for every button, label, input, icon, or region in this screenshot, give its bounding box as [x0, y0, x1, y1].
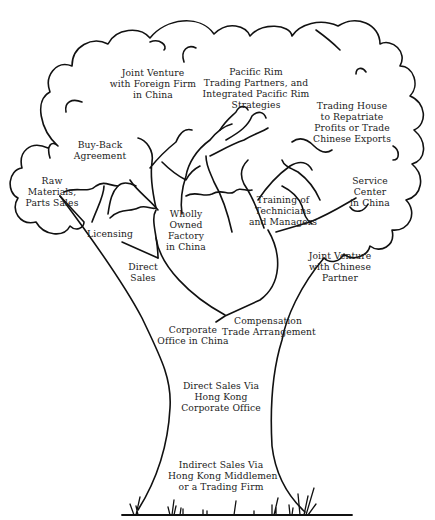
canopy-curl	[66, 100, 82, 112]
trunk-right	[271, 258, 324, 512]
label-line: Wholly	[158, 208, 214, 219]
label-line: with Chinese	[302, 261, 378, 272]
label-line: Technicians	[246, 205, 320, 216]
label-line: Compensation	[222, 315, 314, 326]
label-line: Direct	[121, 261, 165, 272]
label-training: Training of Technicians and Managers	[246, 194, 320, 227]
canopy-curl	[316, 30, 340, 50]
canopy-curl	[393, 146, 398, 160]
label-line: Corporate Office	[178, 402, 264, 413]
label-direct-sales-hk: Direct Sales Via Hong Kong Corporate Off…	[178, 380, 264, 413]
label-line: in China	[158, 241, 214, 252]
label-line: Agreement	[65, 150, 135, 161]
label-line: Buy-Back	[65, 139, 135, 150]
label-licensing: Licensing	[80, 228, 140, 239]
label-line: Trading House	[297, 100, 407, 111]
label-line: Corporate	[155, 324, 231, 335]
label-line: Center	[340, 186, 400, 197]
label-line: Raw	[20, 175, 84, 186]
label-service-center: Service Center in China	[340, 175, 400, 208]
label-trading-house: Trading House to Repatriate Profits or T…	[297, 100, 407, 144]
branch-right-inner	[216, 230, 278, 322]
label-jv-chinese-partner: Joint Venture with Chinese Partner	[302, 250, 378, 283]
canopy-curl	[150, 41, 165, 50]
label-line: Hong Kong Middlemen	[168, 470, 274, 481]
label-line: Office in China	[155, 335, 231, 346]
label-line: Partner	[302, 272, 378, 283]
label-line: Strategies	[201, 99, 311, 110]
label-line: or a Trading Firm	[168, 481, 274, 492]
canopy-curl	[183, 47, 196, 62]
label-line: Trade Arrangement	[222, 326, 314, 337]
label-line: Owned	[158, 219, 214, 230]
label-line: Direct Sales Via	[178, 380, 264, 391]
label-line: Licensing	[80, 228, 140, 239]
label-line: Joint Venture	[302, 250, 378, 261]
branch-licensing	[92, 186, 118, 222]
label-line: Factory	[158, 230, 214, 241]
branch-direct-sales	[122, 242, 158, 258]
label-line: with Foreign Firm	[98, 78, 208, 89]
branch-center-left	[181, 124, 232, 214]
tree-diagram: Joint Venture with Foreign Firm in China…	[0, 0, 435, 520]
label-line: to Repatriate	[297, 111, 407, 122]
label-line: Pacific Rim	[201, 66, 311, 77]
label-buy-back: Buy-Back Agreement	[65, 139, 135, 161]
label-line: Integrated Pacific Rim	[201, 88, 311, 99]
label-line: in China	[98, 89, 208, 100]
branch-upper-left-2	[162, 162, 200, 180]
label-compensation: Compensation Trade Arrangement	[222, 315, 314, 337]
leaf-cluster-mid-left	[110, 207, 156, 218]
label-line: Sales	[121, 272, 165, 283]
label-line: Joint Venture	[98, 67, 208, 78]
label-line: Chinese Exports	[297, 133, 407, 144]
label-line: Hong Kong	[178, 391, 264, 402]
label-line: Parts Sales	[20, 197, 84, 208]
branch-upper-left	[138, 130, 192, 209]
label-pacific-rim: Pacific Rim Trading Partners, and Integr…	[201, 66, 311, 110]
label-line: Trading Partners, and	[201, 77, 311, 88]
label-wholly-owned: Wholly Owned Factory in China	[158, 208, 214, 252]
label-line: Training of	[246, 194, 320, 205]
trunk-left	[60, 196, 170, 510]
label-corporate-office: Corporate Office in China	[155, 324, 231, 346]
label-line: in China	[340, 197, 400, 208]
label-line: Indirect Sales Via	[168, 459, 274, 470]
label-indirect-sales: Indirect Sales Via Hong Kong Middlemen o…	[168, 459, 274, 492]
label-line: Service	[340, 175, 400, 186]
label-line: Materials,	[20, 186, 84, 197]
label-line: and Managers	[246, 216, 320, 227]
canopy-curl	[356, 68, 366, 74]
label-line: Profits or Trade	[297, 122, 407, 133]
label-raw-materials: Raw Materials, Parts Sales	[20, 175, 84, 208]
label-jv-foreign-firm: Joint Venture with Foreign Firm in China	[98, 67, 208, 100]
label-direct-sales: Direct Sales	[121, 261, 165, 283]
